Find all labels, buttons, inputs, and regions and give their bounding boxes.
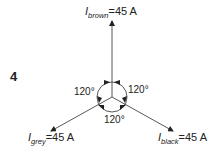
- angle-label-right: 120°: [128, 84, 149, 95]
- brown-subscript: brown: [88, 11, 108, 20]
- angle-label-left: 120°: [74, 86, 95, 97]
- figure-number: 4: [10, 69, 18, 84]
- grey-current-label: Igrey=45 A: [28, 131, 75, 146]
- black-current-label: Iblack=45 A: [158, 131, 208, 146]
- brown-current-label: Ibrown=45 A: [85, 5, 138, 20]
- grey-subscript: grey: [31, 137, 47, 146]
- black-subscript: black: [161, 137, 180, 146]
- grey-phasor-arrow: [51, 97, 112, 131]
- black-value: =45 A: [179, 131, 208, 143]
- grey-value: =45 A: [46, 131, 75, 143]
- brown-value: =45 A: [109, 5, 138, 17]
- phasor-diagram: 4 120° 120° 120° Ibrown=45 A Igrey=45 A …: [0, 0, 211, 155]
- angle-label-bottom: 120°: [104, 114, 125, 125]
